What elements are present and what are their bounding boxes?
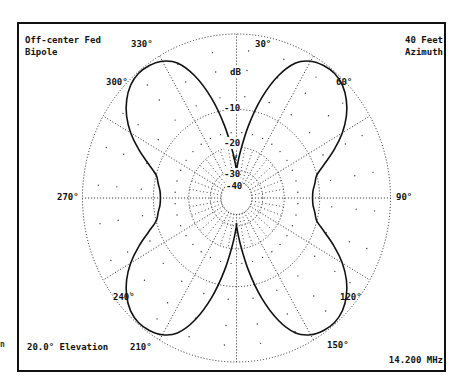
ring-label-40: -40 xyxy=(226,180,242,192)
frequency-label: 14.200 MHz xyxy=(389,354,443,366)
chart-subtitle: 40 Feet Azimuth xyxy=(405,34,443,58)
elevation-label: 20.0° Elevation xyxy=(27,341,108,353)
angle-label-240: 240° xyxy=(113,291,135,303)
spoke-60 xyxy=(250,116,370,190)
angle-label-60: 60° xyxy=(336,76,352,88)
height-label: 40 Feet xyxy=(405,34,443,46)
ring-label-10: -10 xyxy=(224,102,240,114)
angle-label-300: 300° xyxy=(106,76,128,88)
stray-mark: n xyxy=(0,340,5,349)
spoke-300 xyxy=(103,116,223,190)
azimuth-label: Azimuth xyxy=(405,46,443,58)
angle-label-120: 120° xyxy=(340,291,362,303)
spoke-240 xyxy=(103,206,223,280)
angle-label-330: 330° xyxy=(131,38,153,50)
title-line-2: Bipole xyxy=(25,46,101,58)
angle-label-150: 150° xyxy=(327,339,349,351)
radial-marker: v xyxy=(232,151,237,163)
chart-title: Off-center Fed Bipole xyxy=(25,34,101,58)
db-unit-label: dB xyxy=(230,66,241,78)
ring-label-20: -20 xyxy=(224,137,240,149)
angle-label-210: 210° xyxy=(130,341,152,353)
angle-label-30: 30° xyxy=(255,38,271,50)
angle-label-90: 90° xyxy=(396,191,412,203)
ring-label-30: -30 xyxy=(224,168,240,180)
angle-label-270: 270° xyxy=(57,191,79,203)
title-line-1: Off-center Fed xyxy=(25,34,101,46)
spoke-120 xyxy=(250,206,370,280)
